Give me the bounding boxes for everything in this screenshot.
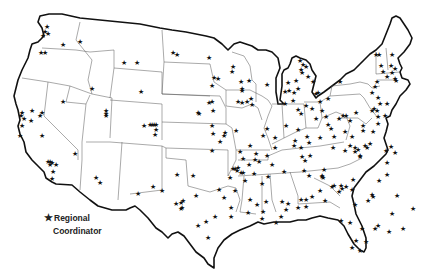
star-icon: ★ — [375, 222, 381, 230]
star-icon: ★ — [342, 128, 348, 136]
star-icon: ★ — [272, 144, 278, 152]
star-icon: ★ — [331, 133, 337, 141]
star-icon: ★ — [254, 201, 260, 209]
star-icon: ★ — [210, 130, 216, 138]
star-icon: ★ — [228, 204, 234, 212]
star-icon: ★ — [246, 77, 252, 85]
star-icon: ★ — [394, 192, 400, 200]
star-icon: ★ — [303, 203, 309, 211]
star-icon: ★ — [210, 107, 216, 115]
star-icon: ★ — [392, 65, 398, 73]
star-icon: ★ — [309, 193, 315, 201]
star-icon: ★ — [281, 168, 287, 176]
star-icon: ★ — [299, 69, 305, 77]
star-icon: ★ — [232, 187, 238, 195]
star-icon: ★ — [349, 133, 355, 141]
star-icon: ★ — [343, 183, 349, 191]
star-icon: ★ — [209, 122, 215, 130]
star-icon: ★ — [375, 113, 381, 121]
star-icon: ★ — [251, 170, 257, 178]
star-icon: ★ — [370, 128, 376, 136]
star-icon: ★ — [242, 177, 248, 185]
star-icon: ★ — [260, 208, 266, 216]
star-icon: ★ — [376, 177, 382, 185]
star-icon: ★ — [328, 125, 334, 133]
star-icon: ★ — [195, 222, 201, 230]
star-icon: ★ — [174, 171, 180, 179]
star-icon: ★ — [307, 152, 313, 160]
star-icon: ★ — [37, 112, 43, 120]
legend-label-line2: Coordinator — [44, 225, 102, 238]
star-icon: ★ — [293, 77, 299, 85]
star-icon: ★ — [97, 179, 103, 187]
star-icon: ★ — [42, 49, 48, 57]
star-icon: ★ — [330, 144, 336, 152]
star-icon: ★ — [337, 78, 343, 86]
star-icon: ★ — [393, 77, 399, 85]
star-icon: ★ — [228, 213, 234, 221]
star-icon: ★ — [209, 147, 215, 155]
star-icon: ★ — [350, 176, 356, 184]
star-icon: ★ — [39, 132, 45, 140]
star-icon: ★ — [282, 100, 288, 108]
star-icon: ★ — [347, 219, 353, 227]
star-icon: ★ — [103, 112, 109, 120]
star-icon: ★ — [252, 156, 258, 164]
star-icon: ★ — [150, 183, 156, 191]
star-icon: ★ — [365, 197, 371, 205]
star-icon: ★ — [382, 112, 388, 120]
star-icon: ★ — [229, 68, 235, 76]
star-icon: ★ — [179, 204, 185, 212]
star-icon: ★ — [272, 134, 278, 142]
star-icon: ★ — [222, 129, 228, 137]
star-icon: ★ — [364, 144, 370, 152]
star-icon: ★ — [249, 101, 255, 109]
star-icon: ★ — [44, 212, 53, 223]
star-icon: ★ — [245, 209, 251, 217]
star-icon: ★ — [384, 159, 390, 167]
star-icon: ★ — [347, 117, 353, 125]
star-icon: ★ — [295, 126, 301, 134]
star-icon: ★ — [317, 187, 323, 195]
star-icon: ★ — [264, 81, 270, 89]
star-icon: ★ — [233, 127, 239, 135]
star-icon: ★ — [310, 78, 316, 86]
star-icon: ★ — [259, 215, 265, 223]
star-icon: ★ — [29, 107, 35, 115]
star-icon: ★ — [338, 217, 344, 225]
star-icon: ★ — [247, 196, 253, 204]
map-root: ★★★★★★★★★★★★★★★★★★★★★★★★★★★★★★★★★★★★★★★★… — [0, 0, 429, 274]
star-icon: ★ — [295, 106, 301, 114]
star-icon: ★ — [376, 51, 382, 59]
star-icon: ★ — [317, 98, 323, 106]
star-icon: ★ — [349, 244, 355, 252]
star-icon: ★ — [135, 190, 141, 198]
star-icon: ★ — [315, 89, 321, 97]
star-icon: ★ — [215, 75, 221, 83]
star-icon: ★ — [265, 173, 271, 181]
star-icon: ★ — [392, 149, 398, 157]
star-icon: ★ — [205, 234, 211, 242]
star-icon: ★ — [352, 201, 358, 209]
star-icon: ★ — [28, 117, 34, 125]
star-icon: ★ — [384, 100, 390, 108]
star-icon: ★ — [206, 99, 212, 107]
star-icon: ★ — [195, 109, 201, 117]
star-icon: ★ — [264, 152, 270, 160]
star-icon: ★ — [360, 127, 366, 135]
star-icon: ★ — [290, 97, 296, 105]
star-icon: ★ — [121, 59, 127, 67]
star-icon: ★ — [235, 164, 241, 172]
star-icon: ★ — [359, 225, 365, 233]
star-icon: ★ — [209, 82, 215, 90]
star-icon: ★ — [260, 132, 266, 140]
star-icon: ★ — [319, 172, 325, 180]
star-icon: ★ — [389, 51, 395, 59]
star-icon: ★ — [283, 122, 289, 130]
star-icon: ★ — [353, 109, 359, 117]
star-icon: ★ — [383, 147, 389, 155]
star-icon: ★ — [278, 213, 284, 221]
star-icon: ★ — [134, 59, 140, 67]
star-icon: ★ — [49, 175, 55, 183]
star-icon: ★ — [325, 95, 331, 103]
